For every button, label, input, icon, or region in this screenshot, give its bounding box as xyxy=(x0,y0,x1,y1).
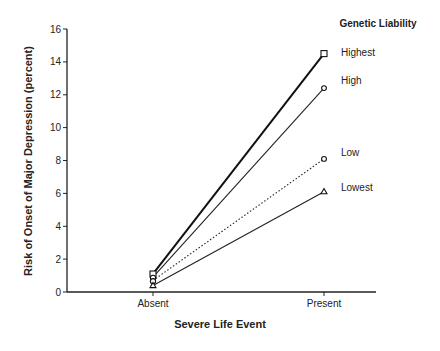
series-line-lowest xyxy=(153,192,324,286)
series-line-low xyxy=(153,159,324,281)
triangle-marker xyxy=(321,189,327,194)
circle-marker xyxy=(322,86,327,91)
x-tick-label-present: Present xyxy=(307,298,342,309)
y-tick-label: 14 xyxy=(50,56,62,67)
series-label-low: Low xyxy=(341,147,360,158)
y-axis-title: Risk of Onset of Major Depression (perce… xyxy=(22,46,34,276)
y-tick-labels: 0 2 4 6 8 10 12 14 16 xyxy=(50,24,62,298)
y-tick-label: 10 xyxy=(50,122,62,133)
series-label-highest: Highest xyxy=(341,47,375,58)
y-tick-label: 12 xyxy=(50,89,62,100)
x-tick-label-absent: Absent xyxy=(137,298,168,309)
square-marker xyxy=(321,51,327,57)
y-tick-label: 16 xyxy=(50,24,62,35)
y-tick-label: 2 xyxy=(55,254,61,265)
x-axis-title: Severe Life Event xyxy=(174,318,266,330)
series-line-high xyxy=(153,88,324,277)
series-label-high: High xyxy=(341,75,362,86)
legend-title: Genetic Liability xyxy=(339,18,417,29)
chart: 0 2 4 6 8 10 12 14 16 Absent Present Sev… xyxy=(0,0,440,351)
circle-marker xyxy=(322,157,327,162)
series-line-highest xyxy=(153,54,324,274)
y-tick-label: 8 xyxy=(55,155,61,166)
series-label-lowest: Lowest xyxy=(341,182,373,193)
y-tick-label: 0 xyxy=(55,287,61,298)
y-tick-label: 6 xyxy=(55,188,61,199)
y-tick-label: 4 xyxy=(55,221,61,232)
